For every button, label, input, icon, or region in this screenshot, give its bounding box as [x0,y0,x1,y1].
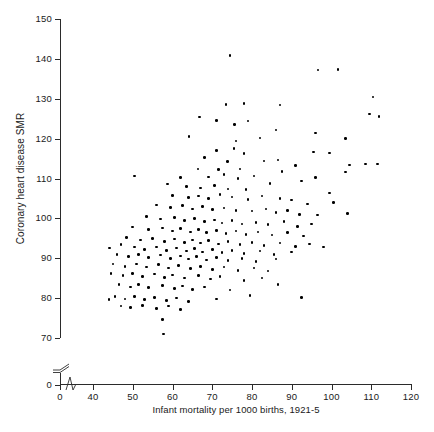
data-point [277,283,280,286]
x-tick-40 [93,385,94,390]
data-point [120,305,123,308]
data-point [198,116,201,119]
data-point [215,256,218,259]
y-tick-150 [55,19,60,20]
data-point [124,298,127,301]
data-point [344,171,347,174]
data-point [181,285,184,288]
data-point [147,228,150,231]
data-point [163,240,166,243]
data-point [257,231,260,234]
data-point [131,272,134,275]
data-point [231,196,234,199]
data-point [314,176,317,179]
data-point [279,104,282,107]
data-point [215,229,218,232]
data-point [191,208,194,211]
data-point [263,160,266,163]
data-point [133,246,136,249]
data-point [233,123,236,126]
x-tick-90 [292,385,293,390]
data-point [286,231,289,234]
data-point [213,184,216,187]
x-tick-110 [371,385,372,390]
data-point [215,298,218,301]
x-tick-label-100: 100 [312,392,352,402]
y-tick-110 [55,179,60,180]
y-tick-80 [55,298,60,299]
data-point [131,226,134,229]
data-point [179,255,182,258]
x-tick-0 [60,385,61,390]
x-axis-break-icon [64,376,80,392]
data-point [161,227,164,230]
data-point [300,180,303,183]
data-point [195,255,198,258]
data-point [171,274,174,277]
data-point [219,275,222,278]
data-point [247,198,250,201]
data-point [255,260,258,263]
y-tick-120 [55,139,60,140]
data-point [193,217,196,220]
data-point [227,259,230,262]
data-point [267,223,270,226]
data-point [364,163,367,166]
data-point [277,159,280,162]
data-point [145,215,148,218]
data-point [161,284,164,287]
data-point [171,194,174,197]
data-point [183,277,186,280]
data-point [153,296,156,299]
x-tick-50 [133,385,134,390]
data-point [225,232,228,235]
data-point [165,249,168,252]
data-point [213,219,216,222]
data-point [199,187,202,190]
y-tick-label-0: 0 [12,380,52,390]
data-point [167,267,170,270]
data-point [378,115,381,118]
data-point [237,177,240,180]
data-point [296,225,299,228]
data-point [151,237,154,240]
data-point [143,298,146,301]
data-point [239,168,242,171]
data-point [344,137,347,140]
data-point [261,195,264,198]
data-point [143,248,146,251]
data-point [203,220,206,223]
data-point [205,259,208,262]
data-point [137,283,140,286]
data-point [161,318,164,321]
data-point [153,273,156,276]
x-tick-label-120: 120 [391,392,431,402]
data-point [226,160,229,163]
data-point [267,270,270,273]
data-point [147,286,150,289]
data-point [207,239,210,242]
data-point [197,168,200,171]
data-point [243,252,246,255]
data-point [157,263,160,266]
data-point [205,231,208,234]
data-point [227,188,230,191]
data-point [249,294,252,297]
data-point [243,279,246,282]
data-point [221,251,224,254]
data-point [159,218,162,221]
x-tick-label-40: 40 [73,392,113,402]
x-axis-title: Infant mortality per 1000 births, 1921-5 [60,404,412,416]
y-axis-title: Coronary heart disease SMR [14,19,28,338]
data-point [235,209,238,212]
data-point [125,236,128,239]
data-point [207,197,210,200]
data-point [189,231,192,234]
x-tick-label-90: 90 [272,392,312,402]
data-point [217,168,220,171]
data-point [122,274,125,277]
x-axis-line [60,384,412,385]
data-point [225,103,228,106]
data-point [159,254,162,257]
data-point [306,203,309,206]
